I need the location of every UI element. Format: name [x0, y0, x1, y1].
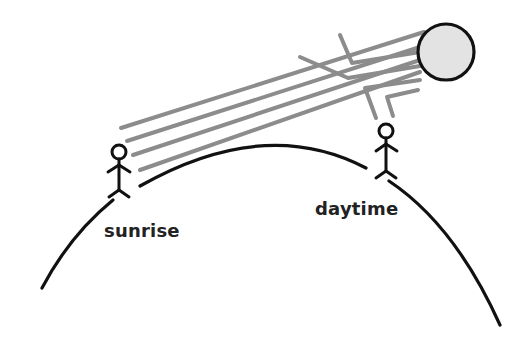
- sunrise-observer-head: [112, 145, 126, 159]
- diagram-canvas: [0, 0, 522, 339]
- daytime-observer: [376, 124, 397, 178]
- sunrise-observer: [108, 145, 130, 197]
- sun: [418, 24, 474, 80]
- earth-arc-middle: [140, 145, 366, 186]
- sunrise-observer-arm-right: [119, 165, 130, 172]
- sunrise-observer-leg-right: [119, 190, 129, 197]
- daytime-observer-arm-right: [386, 144, 397, 151]
- earth-arc-right: [389, 181, 500, 325]
- sunrise-observer-leg-left: [109, 190, 119, 197]
- daytime-label: daytime: [315, 198, 398, 219]
- earth-arc-left: [42, 200, 113, 288]
- daytime-ray-2: [387, 90, 418, 116]
- sunrise-ray-1: [121, 32, 424, 128]
- daytime-observer-leg-right: [386, 171, 396, 178]
- sunrise-observer-arm-left: [108, 165, 119, 172]
- daytime-observer-leg-left: [376, 171, 386, 178]
- sunrise-label: sunrise: [104, 220, 180, 241]
- daytime-observer-head: [379, 124, 393, 138]
